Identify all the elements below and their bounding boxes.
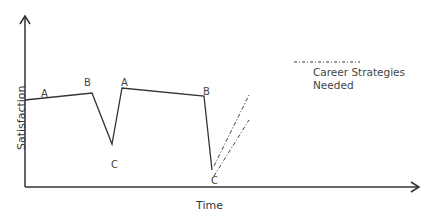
strategy-line-lower	[214, 120, 249, 176]
label-b1: B	[84, 78, 91, 88]
label-a2: A	[121, 78, 128, 88]
label-a1: A	[41, 89, 48, 99]
strategy-line-upper	[214, 95, 249, 166]
label-b2: B	[203, 87, 210, 97]
satisfaction-curve	[25, 88, 212, 170]
label-c1: C	[111, 160, 118, 170]
diagram-canvas	[0, 0, 435, 219]
x-axis-label: Time	[196, 199, 223, 212]
legend-label: Career Strategies Needed	[313, 66, 405, 92]
legend-label-line1: Career Strategies	[313, 66, 405, 79]
label-c2: C	[211, 176, 218, 186]
y-axis-label: Satisfaction	[15, 85, 28, 150]
legend-label-line2: Needed	[313, 79, 405, 92]
